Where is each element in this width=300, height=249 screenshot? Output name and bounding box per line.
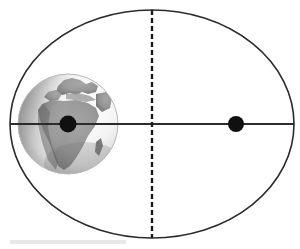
caption-placeholder-bar — [10, 240, 126, 244]
focus-empty — [228, 116, 244, 132]
orbit-diagram-canvas — [0, 0, 300, 249]
focus-earth — [60, 116, 77, 133]
orbit-diagram — [0, 0, 300, 249]
